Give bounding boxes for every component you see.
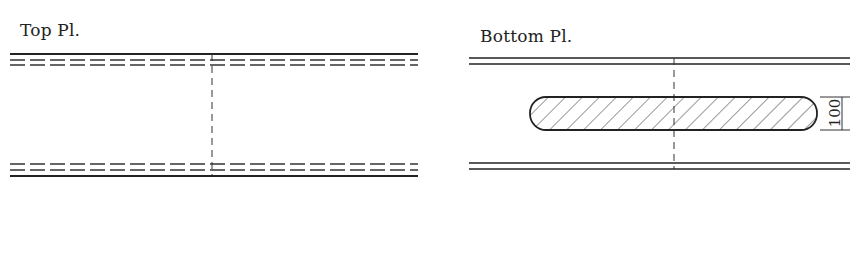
slot-hatched (530, 97, 817, 130)
dimension-label: 100 (826, 98, 844, 128)
top-plate (10, 54, 418, 176)
bottom-plate (469, 58, 850, 169)
plate-drawing (0, 0, 850, 262)
